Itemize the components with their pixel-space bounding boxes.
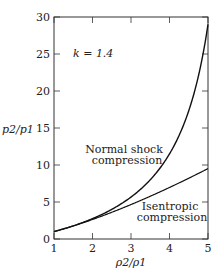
k-annotation: k = 1.4 [73, 47, 113, 60]
x-tick-label: 1 [51, 242, 58, 255]
y-axis-label: p2/p1 [2, 123, 34, 136]
x-tick-label: 5 [205, 242, 212, 255]
labels: ρ2/ρ1p2/p1k = 1.4Normal shockcompression… [2, 47, 207, 269]
isentropic-label-line2: compression [137, 211, 208, 224]
x-tick-label: 3 [128, 242, 135, 255]
normal-shock-label-line2: compression [92, 154, 163, 167]
x-tick-label: 2 [89, 242, 96, 255]
y-tick-label: 25 [36, 48, 50, 61]
y-tick-label: 0 [43, 233, 50, 246]
x-tick-label: 4 [166, 242, 173, 255]
y-tick-label: 30 [36, 11, 50, 24]
chart: 12345051015202530 ρ2/ρ1p2/p1k = 1.4Norma… [0, 0, 224, 276]
y-tick-label: 5 [43, 196, 50, 209]
y-tick-label: 10 [36, 159, 50, 172]
y-tick-label: 15 [36, 122, 50, 135]
x-axis-label: ρ2/ρ1 [115, 256, 147, 269]
y-tick-label: 20 [36, 85, 50, 98]
